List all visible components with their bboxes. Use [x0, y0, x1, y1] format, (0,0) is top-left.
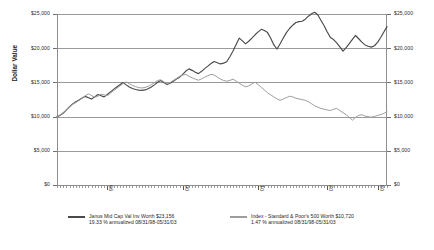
x-tick-minor [76, 186, 77, 188]
x-tick-minor [371, 186, 372, 188]
x-tick-minor [227, 186, 228, 188]
x-tick-minor [98, 186, 99, 188]
x-tick-label: 02 [329, 185, 334, 191]
y-tick-mark-right [387, 14, 391, 15]
x-tick-minor [249, 186, 250, 188]
legend-swatch-fund [68, 216, 85, 218]
x-tick-label: 03 [380, 185, 385, 191]
x-tick-minor [73, 186, 74, 188]
x-tick-minor [290, 186, 291, 188]
legend-label-index: Index - Standard & Poor's 500 Worth $10,… [251, 213, 354, 226]
x-tick-minor [104, 186, 105, 188]
y-tick-label-left: $5,000 [34, 148, 50, 153]
x-tick-minor [368, 186, 369, 188]
legend-label-fund: Janus Mid Cap Val Inv Worth $23,156 19.3… [89, 213, 177, 226]
legend-entry-index: Index - Standard & Poor's 500 Worth $10,… [230, 213, 354, 226]
y-tick-label-right: $5,000 [394, 148, 410, 153]
x-tick-minor [318, 186, 319, 188]
x-tick-minor [230, 186, 231, 188]
legend-swatch-index [230, 216, 247, 218]
x-tick-minor [312, 186, 313, 188]
x-tick-minor [57, 186, 58, 188]
x-tick-minor [173, 186, 174, 188]
y-tick-label-left: $15,000 [31, 80, 50, 85]
x-tick-minor [387, 186, 388, 188]
x-tick-minor [343, 186, 344, 188]
y-tick-label-left: $25,000 [31, 11, 50, 16]
legend-fund-line1: Janus Mid Cap Val Inv Worth $23,156 [89, 213, 174, 219]
x-tick-minor [214, 186, 215, 188]
x-tick-minor [233, 186, 234, 188]
performance-chart: Dollar Value $25,000$20,000$15,000$10,00… [0, 0, 434, 250]
x-tick-minor [202, 186, 203, 188]
x-tick-minor [239, 186, 240, 188]
x-tick-minor [198, 186, 199, 188]
legend-fund-line2: 19.33 % annualized 08/31/98-05/31/03 [89, 219, 177, 225]
x-tick-minor [63, 186, 64, 188]
x-tick-minor [340, 186, 341, 188]
chart-legend: Janus Mid Cap Val Inv Worth $23,156 19.3… [0, 213, 434, 245]
x-tick-minor [66, 186, 67, 188]
x-tick-minor [277, 186, 278, 188]
x-tick-minor [145, 186, 146, 188]
y-tick-label-left: $10,000 [31, 114, 50, 119]
x-tick-minor [365, 186, 366, 188]
x-tick-minor [132, 186, 133, 188]
x-tick-minor [337, 186, 338, 188]
x-tick-minor [349, 186, 350, 188]
x-tick-minor [280, 186, 281, 188]
x-tick-minor [308, 186, 309, 188]
x-tick-minor [176, 186, 177, 188]
x-tick-minor [315, 186, 316, 188]
x-tick-minor [136, 186, 137, 188]
x-tick-minor [346, 186, 347, 188]
x-tick-minor [70, 186, 71, 188]
line-fund [57, 12, 387, 116]
x-tick-minor [88, 186, 89, 188]
y-tick-label-right: $10,000 [394, 114, 413, 119]
x-tick-minor [242, 186, 243, 188]
x-tick-minor [95, 186, 96, 188]
x-tick-minor [180, 186, 181, 188]
y-tick-label-right: $0 [394, 182, 400, 187]
x-tick-minor [123, 186, 124, 188]
y-tick-label-left: $0 [44, 182, 50, 187]
y-axis-title: Dollar Value [11, 70, 18, 82]
x-tick-minor [195, 186, 196, 188]
x-tick-minor [324, 186, 325, 188]
line-index [57, 74, 387, 120]
x-tick-minor [79, 186, 80, 188]
x-tick-minor [126, 186, 127, 188]
x-tick-minor [142, 186, 143, 188]
x-tick-minor [101, 186, 102, 188]
x-tick-minor [359, 186, 360, 188]
legend-index-line1: Index - Standard & Poor's 500 Worth $10,… [251, 213, 354, 219]
x-tick-minor [92, 186, 93, 188]
legend-entry-fund: Janus Mid Cap Val Inv Worth $23,156 19.3… [68, 213, 177, 226]
y-tick-mark-right [387, 48, 391, 49]
x-tick-minor [305, 186, 306, 188]
x-tick-minor [271, 186, 272, 188]
x-tick-minor [274, 186, 275, 188]
x-tick-minor [246, 186, 247, 188]
x-tick-minor [252, 186, 253, 188]
x-tick-minor [205, 186, 206, 188]
x-tick-minor [208, 186, 209, 188]
x-tick-minor [268, 186, 269, 188]
x-tick-minor [129, 186, 130, 188]
x-tick-minor [161, 186, 162, 188]
x-tick-minor [217, 186, 218, 188]
x-tick-minor [158, 186, 159, 188]
x-tick-minor [192, 186, 193, 188]
x-tick-minor [120, 186, 121, 188]
x-tick-minor [154, 186, 155, 188]
x-tick-minor [374, 186, 375, 188]
x-tick-minor [117, 186, 118, 188]
x-tick-label: 99 [109, 185, 114, 191]
x-tick-minor [296, 186, 297, 188]
x-tick-minor [321, 186, 322, 188]
y-tick-label-right: $25,000 [394, 11, 413, 16]
x-tick-label: 01 [260, 185, 265, 191]
x-tick-minor [170, 186, 171, 188]
x-tick-minor [236, 186, 237, 188]
